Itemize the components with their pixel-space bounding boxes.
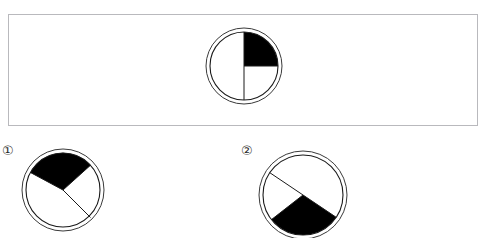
option-2-figure-svg (258, 150, 350, 238)
option-1-figure[interactable] (21, 148, 107, 234)
clipped-text-fragment: — (14, 0, 25, 2)
option-1-index-label: ① (2, 144, 14, 158)
clipped-text-fragment: —— (322, 0, 344, 2)
option-1-figure-svg (21, 148, 107, 234)
question-figure-svg (204, 27, 284, 107)
clipped-text-fragment: —— —— (396, 0, 443, 2)
page-root: — —— — — —— — — — —— —— —— —— — — ① (0, 0, 487, 238)
radius-line-upper-left (270, 173, 303, 195)
option-2-index-label: ② (241, 144, 253, 158)
question-figure (204, 27, 284, 107)
clipped-text-fragment: — — (452, 0, 477, 2)
clipped-text-fragment: —— — (196, 0, 232, 2)
clipped-text-fragment: — — —— (252, 0, 302, 2)
clipped-text-fragment: —— (78, 0, 100, 2)
clipped-text-fragment: — — (118, 0, 143, 2)
clipped-header-text: — —— — — —— — — — —— —— —— —— — — (0, 0, 487, 9)
radius-line-lower-right (63, 190, 91, 218)
option-2-figure[interactable] (258, 150, 350, 238)
